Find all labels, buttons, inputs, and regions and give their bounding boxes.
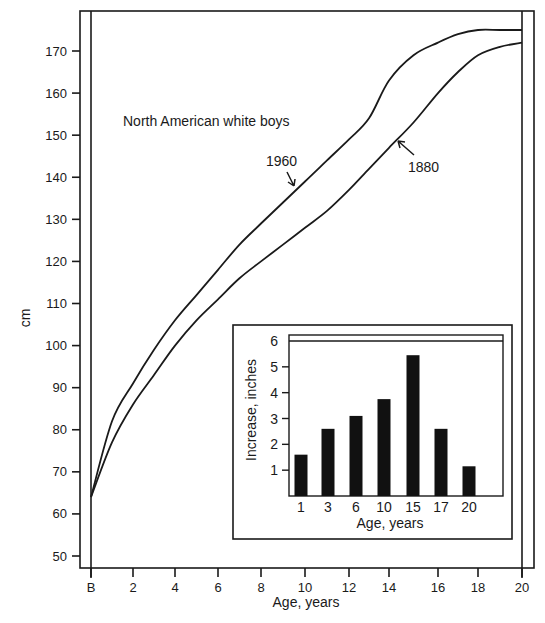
inset-y-tick-label: 2: [270, 436, 278, 452]
y-axis-title: cm: [17, 309, 33, 328]
label-1880: 1880: [408, 159, 439, 175]
inset-bar: [463, 466, 476, 496]
y-tick-label: 140: [45, 170, 67, 185]
x-tick-label: 16: [431, 580, 445, 595]
x-tick-label: 8: [257, 580, 264, 595]
x-tick-label: 12: [342, 580, 356, 595]
inset-bar: [350, 416, 363, 496]
y-tick-label: 170: [45, 44, 67, 59]
inset-x-tick-label: 15: [405, 499, 421, 515]
x-tick-label: 2: [129, 580, 136, 595]
y-tick-label: 150: [45, 128, 67, 143]
y-tick-label: 120: [45, 254, 67, 269]
inset-bar: [407, 355, 420, 496]
y-tick-label: 160: [45, 86, 67, 101]
arrow-1960-icon: [287, 172, 295, 186]
y-axis: 5060708090100110120130140150160170: [45, 44, 80, 564]
y-tick-label: 60: [53, 506, 67, 521]
x-tick-label: 6: [214, 580, 221, 595]
inset-y-axis-title: Increase, inches: [243, 359, 259, 461]
inset-x-tick-label: 6: [352, 499, 360, 515]
y-tick-label: 50: [53, 549, 67, 564]
x-tick-label: 4: [171, 580, 178, 595]
x-tick-label: 20: [515, 580, 529, 595]
inset-bar: [322, 429, 335, 496]
x-tick-label: 18: [471, 580, 485, 595]
x-tick-label: 14: [382, 580, 396, 595]
x-axis: B2468101214161820: [87, 568, 530, 595]
inset-bar: [378, 399, 391, 496]
chart-annotation: North American white boys: [123, 113, 290, 129]
inset-x-tick-label: 3: [324, 499, 332, 515]
inset-x-tick-label: 17: [433, 499, 449, 515]
y-tick-label: 80: [53, 422, 67, 437]
y-tick-label: 130: [45, 212, 67, 227]
inset-bar-chart: 123456 13610151720 Increase, inches Age,…: [233, 325, 512, 539]
inset-bar: [435, 429, 448, 496]
inset-bar: [295, 455, 308, 496]
arrow-1880-icon: [398, 141, 414, 155]
growth-chart: 5060708090100110120130140150160170 B2468…: [0, 0, 545, 623]
x-tick-label: B: [87, 580, 96, 595]
y-tick-label: 100: [45, 338, 67, 353]
y-tick-label: 70: [53, 464, 67, 479]
inset-x-tick-label: 10: [376, 499, 392, 515]
inset-x-tick-label: 20: [461, 499, 477, 515]
y-tick-label: 110: [46, 296, 67, 311]
x-axis-title: Age, years: [273, 594, 340, 610]
inset-y-tick-label: 5: [270, 359, 278, 375]
inset-y-tick-label: 1: [270, 462, 278, 478]
x-tick-label: 10: [298, 580, 312, 595]
y-tick-label: 90: [53, 380, 67, 395]
inset-y-tick-label: 6: [270, 333, 278, 349]
inset-x-tick-label: 1: [297, 499, 305, 515]
inset-y-tick-label: 3: [270, 411, 278, 427]
label-1960: 1960: [266, 153, 297, 169]
inset-y-tick-label: 4: [270, 385, 278, 401]
inset-x-axis-title: Age, years: [357, 515, 424, 531]
